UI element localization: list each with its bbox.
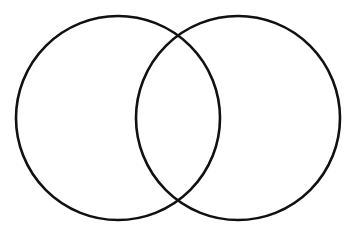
diagram-canvas — [0, 0, 357, 239]
venn-diagram-svg — [0, 0, 357, 239]
